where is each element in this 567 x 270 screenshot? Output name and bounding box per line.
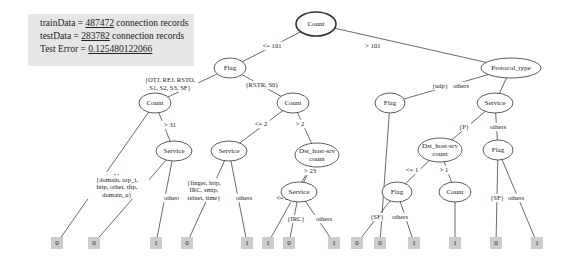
node-label: Protocol_type bbox=[491, 64, 530, 72]
tree-node-flag4: Flag bbox=[382, 182, 412, 202]
tree-node-count3: Count bbox=[277, 93, 309, 113]
leaf-label: 1 bbox=[453, 239, 457, 247]
node-label: Service bbox=[289, 188, 310, 196]
node-label: Flag bbox=[384, 99, 397, 107]
leaf-node: 0 bbox=[374, 237, 386, 249]
node-label: Flag bbox=[391, 188, 404, 196]
leaf-node: 0 bbox=[283, 237, 295, 249]
leaf-label: 0 bbox=[55, 239, 59, 247]
edge-label: {SF} bbox=[490, 194, 504, 202]
edge-label: <= 101 bbox=[263, 42, 282, 49]
tree-edge bbox=[316, 24, 511, 68]
tree-node-dsthost2: Dst_host-srvcount bbox=[418, 138, 462, 162]
edge-label: > 101 bbox=[365, 42, 380, 49]
node-label: Flag bbox=[492, 146, 505, 154]
tree-node-root: Count bbox=[296, 12, 336, 36]
leaf-node: 1 bbox=[262, 237, 274, 249]
leaf-label: 0 bbox=[185, 239, 189, 247]
tree-node-service2: Service bbox=[156, 141, 192, 161]
edge-label: {IRC} bbox=[287, 215, 304, 223]
leaf-node: 1 bbox=[241, 237, 253, 249]
edge-label: {OTJ, REJ, RSTO,S1, S2, S3, SF} bbox=[145, 76, 196, 92]
tree-node-flag1: Flag bbox=[214, 58, 246, 78]
leaf-node: 1 bbox=[449, 237, 461, 249]
edge-label: others bbox=[164, 194, 181, 201]
leaf-node: 0 bbox=[88, 237, 100, 249]
edge-label: others bbox=[392, 213, 409, 220]
leaf-label: 0 bbox=[287, 239, 291, 247]
edge-label: others bbox=[316, 215, 333, 222]
node-label: Service bbox=[164, 147, 185, 155]
leaf-label: 1 bbox=[154, 239, 158, 247]
node-label: Service bbox=[485, 99, 506, 107]
leaf-label: 0 bbox=[494, 239, 498, 247]
tree-node-service4: Service bbox=[281, 182, 317, 202]
node-label: Count bbox=[284, 99, 301, 107]
edge-label: {P} bbox=[459, 123, 469, 131]
leaf-label: 0 bbox=[378, 239, 382, 247]
edge-label: > 23 bbox=[304, 167, 317, 174]
leaf-node: 0 bbox=[51, 237, 63, 249]
leaf-node: 0 bbox=[490, 237, 502, 249]
node-label: Count bbox=[307, 20, 324, 28]
edge-label: others bbox=[236, 194, 253, 201]
decision-tree: <= 101> 101{OTJ, REJ, RSTO,S1, S2, S3, S… bbox=[0, 0, 567, 270]
edge-label: > 2 bbox=[296, 120, 305, 127]
leaf-label: 1 bbox=[332, 239, 336, 247]
tree-node-service1: Service bbox=[477, 93, 513, 113]
leaf-label: 1 bbox=[245, 239, 249, 247]
tree-node-flag3: Flag bbox=[483, 140, 513, 160]
leaf-node: 0 bbox=[351, 237, 363, 249]
leaf-node: 1 bbox=[531, 237, 543, 249]
leaf-label: 0 bbox=[92, 239, 96, 247]
leaf-node: 1 bbox=[328, 237, 340, 249]
tree-edge bbox=[380, 103, 390, 243]
leaf-label: 1 bbox=[266, 239, 270, 247]
edge-label: > 1 bbox=[440, 166, 449, 173]
edge-label: others bbox=[453, 82, 470, 89]
tree-node-count4: Count bbox=[439, 182, 471, 202]
leaf-label: 0 bbox=[355, 239, 359, 247]
node-label: Count bbox=[446, 188, 463, 196]
node-label: Count bbox=[146, 99, 163, 107]
tree-node-service3: Service bbox=[211, 141, 247, 161]
tree-node-dsthost1: Dst_host-srvcount bbox=[295, 143, 339, 167]
edge-label: {finger, http,IRC, smtp,telnet, time} bbox=[187, 178, 221, 201]
edge-label: <= 1 bbox=[406, 166, 418, 173]
edge-label: {udp} bbox=[432, 82, 448, 90]
leaf-node: 0 bbox=[181, 237, 193, 249]
leaf-label: 1 bbox=[412, 239, 416, 247]
leaf-label: 1 bbox=[535, 239, 539, 247]
node-label: Flag bbox=[224, 64, 237, 72]
edge-label: > 31 bbox=[164, 121, 176, 128]
tree-node-flag2: Flag bbox=[375, 93, 405, 113]
edge-label: {RSTR, S0} bbox=[245, 81, 278, 89]
leaf-node: 1 bbox=[408, 237, 420, 249]
edge-label: <= 2 bbox=[255, 120, 267, 127]
tree-node-proto: Protocol_type bbox=[481, 58, 541, 78]
leaf-node: 1 bbox=[150, 237, 162, 249]
edge-label: others bbox=[490, 123, 507, 130]
edge-label: {SF} bbox=[370, 213, 384, 221]
node-label: Service bbox=[219, 147, 240, 155]
edge-label: others bbox=[508, 194, 525, 201]
tree-node-count2: Count bbox=[139, 93, 171, 113]
